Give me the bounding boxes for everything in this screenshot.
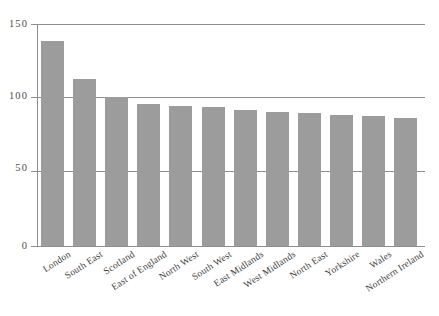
x-tick-label-text: Northern Ireland — [364, 249, 425, 294]
bar — [202, 107, 225, 246]
bar — [137, 104, 160, 246]
y-tick-label-0: 0 — [0, 240, 28, 251]
x-axis-category-labels: LondonSouth EastScotlandEast of EnglandN… — [37, 249, 437, 316]
bar — [73, 79, 96, 246]
y-tick-label-100: 100 — [0, 90, 28, 101]
x-tick-label-text: Yorkshire — [323, 249, 361, 279]
bar — [330, 115, 353, 246]
bar — [362, 116, 385, 246]
bar — [105, 97, 128, 246]
bar — [298, 113, 321, 246]
bar — [41, 41, 64, 246]
bar — [266, 112, 289, 246]
bar — [394, 118, 417, 246]
bar — [169, 106, 192, 246]
y-tick-label-50: 50 — [0, 162, 28, 173]
bar-chart: 150 100 50 0 LondonSouth EastScotlandEas… — [0, 0, 439, 316]
x-tick-label: Northern Ireland — [364, 249, 425, 294]
x-tick-label: Yorkshire — [323, 249, 361, 279]
bar — [234, 110, 257, 246]
y-tick-label-150: 150 — [0, 18, 28, 29]
x-axis-line — [37, 246, 425, 247]
bars-layer — [37, 22, 425, 246]
